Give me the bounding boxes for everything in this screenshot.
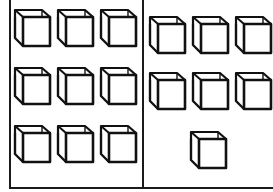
cube-icon <box>189 130 229 170</box>
cube-icon <box>13 66 53 106</box>
frame-bottom-border <box>9 187 273 189</box>
cube-icon <box>191 71 231 111</box>
cube-icon <box>148 71 188 111</box>
cube-icon <box>99 8 139 48</box>
cube-icon <box>234 15 273 55</box>
frame-left-border <box>9 0 11 189</box>
cube-icon <box>234 71 273 111</box>
cube-icon <box>148 15 188 55</box>
cube-icon <box>191 15 231 55</box>
cube-icon <box>99 66 139 106</box>
cube-icon <box>13 124 53 164</box>
cube-icon <box>99 124 139 164</box>
group-divider <box>142 0 144 189</box>
cube-icon <box>56 66 96 106</box>
cube-icon <box>13 8 53 48</box>
cube-icon <box>56 124 96 164</box>
cube-icon <box>56 8 96 48</box>
